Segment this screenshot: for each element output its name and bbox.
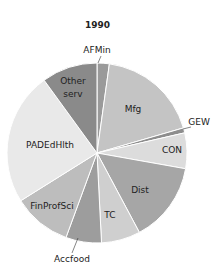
slice-label: CON [162, 145, 182, 155]
slice-label: FinProfSci [30, 201, 73, 211]
pie-chart: AFMinMfgGEWCONDistTCAccfoodFinProfSciPAD… [0, 0, 213, 279]
slice-label: GEW [188, 117, 210, 127]
slice-label: TC [103, 210, 115, 220]
slice-label: Dist [131, 185, 149, 195]
slice-label: Mfg [125, 104, 142, 114]
leader-line [183, 127, 191, 129]
slice-label: Accfood [54, 254, 90, 264]
slice-label: PADEdHlth [26, 140, 74, 150]
slice-label: AFMin [83, 45, 110, 55]
leader-line [98, 56, 101, 63]
